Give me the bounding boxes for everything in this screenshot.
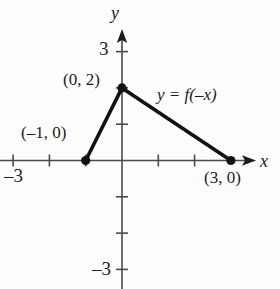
x-tick-label-neg3: –3 — [4, 166, 23, 185]
coordinate-plot — [0, 0, 280, 289]
point-marker-3-0 — [226, 156, 235, 165]
function-equation-label: y = f(–x) — [157, 86, 217, 103]
point-label-neg1-0: (–1, 0) — [21, 124, 66, 141]
y-axis-label: y — [111, 4, 119, 22]
point-marker-0-2 — [117, 83, 126, 92]
x-axis-label: x — [260, 152, 268, 170]
y-tick-label-neg3: –3 — [92, 259, 111, 278]
math-graph-figure: y x 3 –3 –3 (0, 2) (–1, 0) (3, 0) y = f(… — [0, 0, 280, 289]
y-tick-label-3: 3 — [99, 39, 109, 58]
point-label-3-0: (3, 0) — [204, 169, 241, 186]
point-marker-neg1-0 — [81, 156, 90, 165]
point-label-0-2: (0, 2) — [63, 71, 100, 88]
